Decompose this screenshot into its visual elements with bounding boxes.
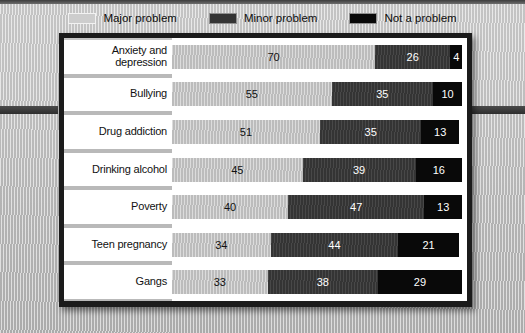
chart-row: Drug addiction513513 (64, 113, 467, 151)
category-label: Poverty (64, 188, 172, 226)
bar-cell: 70264 (172, 38, 467, 76)
category-label-line2: depression (112, 57, 167, 69)
chart-panel: Anxiety anddepression70264Bullying553510… (59, 33, 472, 307)
bar-segment-minor: 38 (268, 270, 378, 294)
category-label: Drinking alcohol (64, 151, 172, 189)
bar-segment-major: 33 (172, 270, 268, 294)
bar-cell: 553510 (172, 76, 467, 114)
stacked-bar: 404713 (172, 195, 462, 219)
bar-cell: 333829 (172, 263, 467, 301)
legend-swatch-minor (209, 13, 237, 24)
legend-item-none: Not a problem (349, 12, 456, 24)
chart-legend: Major problemMinor problemNot a problem (0, 8, 525, 28)
bar-segment-major: 40 (172, 195, 288, 219)
category-label-line1: Gangs (136, 276, 167, 288)
category-label: Gangs (64, 263, 172, 301)
category-label-line1: Drinking alcohol (92, 164, 167, 176)
stacked-bar: 344421 (172, 233, 462, 257)
bar-segment-major: 45 (172, 158, 303, 182)
category-label-line1: Bullying (130, 88, 167, 100)
bar-segment-minor: 44 (271, 233, 399, 257)
stacked-bar: 453916 (172, 158, 462, 182)
chart-row: Teen pregnancy344421 (64, 226, 467, 264)
stacked-bar: 333829 (172, 270, 462, 294)
bar-segment-minor: 35 (320, 120, 422, 144)
chart-rows: Anxiety anddepression70264Bullying553510… (64, 38, 467, 301)
chart-row: Gangs333829 (64, 263, 467, 301)
legend-label-minor: Minor problem (244, 12, 318, 24)
stacked-bar: 553510 (172, 82, 462, 106)
category-label: Anxiety anddepression (64, 38, 172, 76)
bar-cell: 453916 (172, 151, 467, 189)
bar-segment-minor: 39 (303, 158, 416, 182)
stacked-bar: 513513 (172, 120, 462, 144)
bar-cell: 513513 (172, 113, 467, 151)
category-label: Bullying (64, 76, 172, 114)
chart-row: Anxiety anddepression70264 (64, 38, 467, 76)
chart-panel-inner: Anxiety anddepression70264Bullying553510… (64, 38, 467, 301)
category-label: Drug addiction (64, 113, 172, 151)
bar-segment-major: 51 (172, 120, 320, 144)
bar-cell: 344421 (172, 226, 467, 264)
right-decorative-band (466, 106, 525, 114)
chart-row: Drinking alcohol453916 (64, 151, 467, 189)
category-label-line1: Poverty (131, 201, 167, 213)
category-label-line1: Teen pregnancy (92, 239, 167, 251)
legend-label-none: Not a problem (384, 12, 456, 24)
bar-segment-major: 55 (172, 82, 332, 106)
bar-segment-none: 21 (398, 233, 459, 257)
bar-cell: 404713 (172, 188, 467, 226)
left-decorative-band (0, 106, 58, 114)
legend-swatch-none (349, 13, 377, 24)
bar-segment-minor: 26 (375, 45, 450, 69)
bar-segment-major: 34 (172, 233, 271, 257)
category-label-line1: Drug addiction (99, 126, 167, 138)
chart-row: Poverty404713 (64, 188, 467, 226)
legend-swatch-major (68, 13, 96, 24)
bar-segment-major: 70 (172, 45, 375, 69)
bar-segment-minor: 47 (288, 195, 424, 219)
bar-segment-none: 13 (421, 120, 459, 144)
bar-segment-none: 16 (416, 158, 462, 182)
legend-label-major: Major problem (103, 12, 177, 24)
bar-segment-none: 29 (378, 270, 462, 294)
bar-segment-none: 13 (424, 195, 462, 219)
chart-row: Bullying553510 (64, 76, 467, 114)
legend-item-minor: Minor problem (209, 12, 318, 24)
bar-segment-none: 4 (450, 45, 462, 69)
category-label: Teen pregnancy (64, 226, 172, 264)
category-label-line1: Anxiety and (112, 45, 167, 57)
legend-item-major: Major problem (68, 12, 177, 24)
stacked-bar: 70264 (172, 45, 462, 69)
top-edge-strip (0, 0, 525, 4)
bar-segment-minor: 35 (332, 82, 434, 106)
bar-segment-none: 10 (433, 82, 462, 106)
